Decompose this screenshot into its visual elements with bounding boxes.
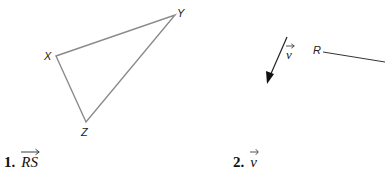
triangle-xyz — [56, 15, 175, 122]
figure-canvas — [0, 0, 385, 179]
vector-label-v: v — [286, 48, 292, 61]
overarrow-icon — [21, 148, 40, 156]
problem-2-number: 2. — [233, 154, 244, 170]
vertex-label-x: X — [44, 51, 51, 62]
problem-2-expression-text: v — [250, 154, 257, 170]
problem-1-expression-text: RS — [21, 154, 38, 170]
problem-2-expression: v — [250, 155, 257, 170]
point-label-r: R — [313, 45, 321, 56]
vertex-label-z: Z — [81, 127, 88, 138]
vertex-label-y: Y — [177, 8, 184, 19]
problem-1-number: 1. — [4, 154, 15, 170]
problem-1-expression: RS — [21, 155, 38, 170]
problem-1: 1.RS — [4, 155, 38, 170]
overarrow-icon — [250, 148, 259, 156]
problem-2: 2.v — [233, 155, 257, 170]
vector-label-v-text: v — [286, 47, 292, 62]
vector-v-arrow — [266, 37, 287, 84]
vector-arrow-icon — [286, 43, 295, 49]
ray-from-r — [323, 52, 385, 62]
